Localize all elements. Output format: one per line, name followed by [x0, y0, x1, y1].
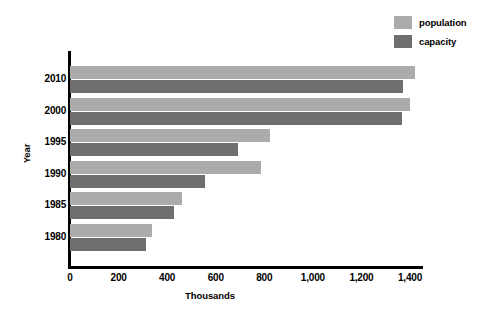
x-tick-label-1400: 1,400 [398, 272, 422, 283]
x-tick-label-400: 400 [159, 272, 175, 283]
bar-group [70, 224, 410, 256]
bar-population-1980 [70, 224, 152, 237]
x-axis-title: Thousands [0, 290, 420, 301]
bar-chart: population capacity 20102000199519901985… [0, 0, 494, 314]
y-axis-title: Year [21, 137, 32, 171]
y-tick-label-1990: 1990 [28, 168, 66, 179]
bar-capacity-2000 [70, 112, 402, 125]
bar-capacity-1990 [70, 175, 205, 188]
legend-swatch-population [394, 16, 412, 29]
x-tick-label-0: 0 [67, 272, 72, 283]
bar-capacity-1980 [70, 238, 146, 251]
y-tick-label-1995: 1995 [28, 136, 66, 147]
bar-population-1990 [70, 161, 261, 174]
bar-group [70, 98, 410, 130]
legend-label-capacity: capacity [419, 35, 456, 48]
x-tick-label-1000: 1,000 [301, 272, 325, 283]
y-tick-label-1980: 1980 [28, 231, 66, 242]
legend-label-population: population [419, 16, 467, 29]
legend-swatch-capacity [394, 35, 412, 48]
bar-population-2000 [70, 98, 410, 111]
y-tick-label-1985: 1985 [28, 199, 66, 210]
bar-group [70, 192, 410, 224]
x-tick-label-800: 800 [256, 272, 272, 283]
x-tick-label-600: 600 [208, 272, 224, 283]
x-axis-line [68, 266, 423, 269]
y-tick-label-2010: 2010 [28, 73, 66, 84]
x-tick-label-200: 200 [111, 272, 127, 283]
y-axis-tick-labels: 201020001995199019851980 [28, 66, 66, 256]
bar-group [70, 129, 410, 161]
chart-legend: population capacity [394, 16, 467, 48]
y-tick-label-2000: 2000 [28, 105, 66, 116]
bar-population-2010 [70, 66, 415, 79]
bar-capacity-2010 [70, 80, 403, 93]
bar-group [70, 161, 410, 193]
legend-entry-capacity: capacity [394, 35, 467, 48]
x-axis-tick-labels: 02004006008001,0001,2001,400 [0, 272, 494, 286]
bar-series-container [70, 66, 410, 256]
bar-capacity-1985 [70, 206, 174, 219]
bar-population-1985 [70, 192, 182, 205]
bar-capacity-1995 [70, 143, 238, 156]
x-tick-label-1200: 1,200 [349, 272, 373, 283]
legend-entry-population: population [394, 16, 467, 29]
bar-population-1995 [70, 129, 270, 142]
bar-group [70, 66, 410, 98]
